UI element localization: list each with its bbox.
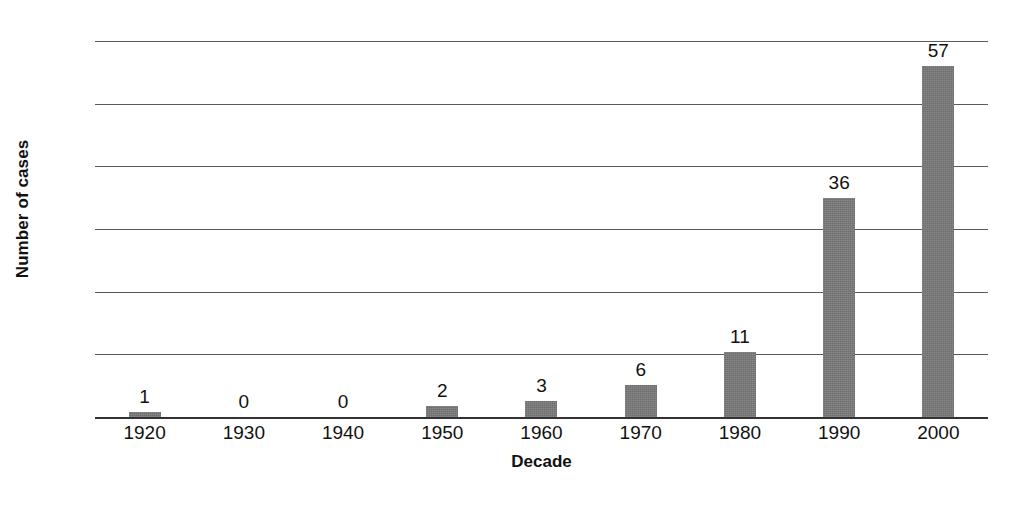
x-axis-title: Decade bbox=[95, 452, 988, 472]
bar-value-label: 2 bbox=[437, 381, 448, 400]
x-tick-label: 1980 bbox=[690, 422, 789, 444]
bar[interactable] bbox=[525, 401, 557, 417]
bar-value-label: 36 bbox=[829, 173, 850, 192]
x-tick-label: 1930 bbox=[194, 422, 293, 444]
x-tick-label: 1950 bbox=[393, 422, 492, 444]
x-tick-label: 1990 bbox=[790, 422, 889, 444]
bar-group: 0 bbox=[194, 41, 293, 417]
bar[interactable] bbox=[426, 406, 458, 417]
bar[interactable] bbox=[724, 352, 756, 417]
bar[interactable] bbox=[922, 66, 954, 417]
bar-group: 6 bbox=[591, 41, 690, 417]
plot-area: 0102030405060100236113657 bbox=[95, 41, 988, 417]
x-tick-label: 1960 bbox=[492, 422, 591, 444]
y-axis-title-text: Number of cases bbox=[13, 139, 33, 278]
bar[interactable] bbox=[823, 198, 855, 417]
x-tick-label: 2000 bbox=[889, 422, 988, 444]
bar-group: 2 bbox=[393, 41, 492, 417]
bar-value-label: 3 bbox=[536, 376, 547, 395]
bar-group: 1 bbox=[95, 41, 194, 417]
bar-group: 57 bbox=[889, 41, 988, 417]
bar-group: 11 bbox=[690, 41, 789, 417]
bar-value-label: 0 bbox=[239, 392, 250, 411]
bar-group: 0 bbox=[293, 41, 392, 417]
bar[interactable] bbox=[625, 385, 657, 417]
x-tick-label: 1920 bbox=[95, 422, 194, 444]
bar-group: 36 bbox=[790, 41, 889, 417]
bar-group: 3 bbox=[492, 41, 591, 417]
bar-value-label: 11 bbox=[730, 327, 750, 346]
x-axis-baseline bbox=[95, 417, 988, 419]
bar-value-label: 0 bbox=[338, 392, 349, 411]
x-tick-label: 1940 bbox=[293, 422, 392, 444]
y-axis-title: Number of cases bbox=[0, 0, 46, 417]
bar-value-label: 57 bbox=[928, 41, 949, 60]
bar-value-label: 6 bbox=[635, 360, 646, 379]
bar[interactable] bbox=[129, 412, 161, 417]
bar-chart-figure: Number of cases 010203040506010023611365… bbox=[0, 0, 1017, 506]
x-tick-label: 1970 bbox=[591, 422, 690, 444]
bar-value-label: 1 bbox=[139, 387, 150, 406]
